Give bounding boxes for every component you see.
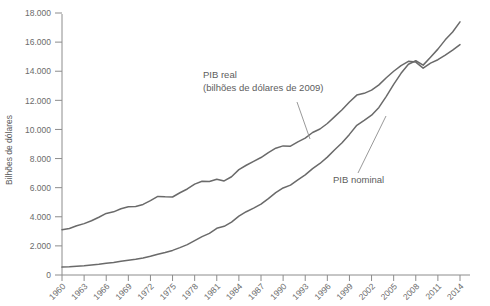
- y-tick-label: 18.000: [25, 8, 51, 18]
- x-tick-label: 2014: [445, 281, 466, 302]
- series-line-pib-real: [62, 45, 460, 230]
- annotation-line: PIB nominal: [333, 174, 384, 185]
- x-tick-label: 1987: [246, 281, 267, 302]
- x-tick-label: 1975: [158, 281, 179, 302]
- x-tick-label: 1999: [334, 281, 355, 302]
- x-tick-label: 1993: [290, 281, 311, 302]
- annotation-pib-nominal: PIB nominal: [333, 174, 384, 185]
- x-tick-label: 2005: [379, 281, 400, 302]
- y-axis-ticks: 02.0004.0006.0008.00010.00012.00014.0001…: [25, 8, 62, 280]
- annotations-group: PIB real(bilhões de dólares de 2009)PIB …: [203, 69, 384, 185]
- y-tick-label: 12.000: [25, 96, 51, 106]
- gdp-line-chart: Bilhões de dólares 02.0004.0006.0008.000…: [0, 0, 490, 306]
- y-tick-label: 2.000: [30, 241, 52, 251]
- x-tick-label: 1990: [268, 281, 289, 302]
- x-tick-label: 1996: [312, 281, 333, 302]
- x-tick-label: 2008: [401, 281, 422, 302]
- x-tick-label: 1960: [47, 281, 68, 302]
- annotation-pib-real: PIB real(bilhões de dólares de 2009): [203, 69, 323, 93]
- y-axis-title-group: Bilhões de dólares: [4, 115, 14, 185]
- x-tick-label: 1981: [202, 281, 223, 302]
- x-tick-label: 1963: [69, 281, 90, 302]
- x-tick-label: 1984: [224, 281, 245, 302]
- y-tick-label: 4.000: [30, 212, 52, 222]
- x-tick-label: 1966: [91, 281, 112, 302]
- pib-real-leader-line: [297, 102, 310, 139]
- annotation-line: (bilhões de dólares de 2009): [203, 82, 323, 93]
- x-tick-label: 1978: [180, 281, 201, 302]
- y-tick-label: 14.000: [25, 66, 51, 76]
- y-tick-label: 16.000: [25, 37, 51, 47]
- y-tick-label: 8.000: [30, 154, 52, 164]
- y-tick-label: 6.000: [30, 183, 52, 193]
- series-line-pib-nominal: [62, 22, 460, 267]
- annotation-line: PIB real: [203, 69, 237, 80]
- x-tick-label: 2002: [357, 281, 378, 302]
- chart-canvas: Bilhões de dólares 02.0004.0006.0008.000…: [0, 0, 490, 306]
- x-tick-label: 1969: [113, 281, 134, 302]
- x-tick-label: 1972: [135, 281, 156, 302]
- pib-nominal-leader-line: [358, 116, 386, 173]
- data-series-group: [62, 22, 460, 267]
- x-axis-ticks: 1960196319661969197219751978198119841987…: [47, 275, 466, 302]
- y-axis-title: Bilhões de dólares: [4, 115, 14, 185]
- y-tick-label: 0: [46, 270, 51, 280]
- x-tick-label: 2011: [423, 281, 443, 301]
- y-tick-label: 10.000: [25, 125, 51, 135]
- annotation-leaders: [297, 102, 386, 173]
